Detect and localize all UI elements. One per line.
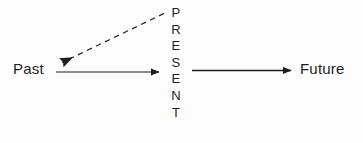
timeline-diagram: Past P R E S E N T Future [0, 0, 363, 143]
present-letter-6: N [171, 88, 181, 105]
present-to-past-dashed-arrow [62, 14, 164, 63]
present-letter-1: P [172, 5, 181, 22]
present-letter-4: S [172, 55, 181, 72]
past-label: Past [13, 60, 44, 77]
present-letter-7: T [172, 105, 180, 122]
present-letter-2: R [171, 22, 181, 39]
present-label: P R E S E N T [165, 5, 187, 121]
present-letter-3: E [172, 38, 181, 55]
present-letter-5: E [172, 71, 181, 88]
future-label: Future [300, 60, 345, 77]
